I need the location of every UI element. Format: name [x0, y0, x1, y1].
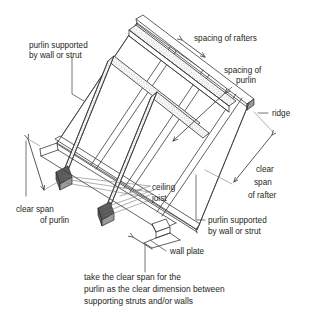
roof-construction-diagram: purlin supported by wall or strut spacin…: [0, 0, 312, 314]
label-spacing-of-rafters-line1: spacing of rafters: [194, 34, 257, 43]
label-wall-plate-line1: wall plate: [169, 247, 205, 256]
label-ceiling-joist-line2: joist: [151, 194, 167, 203]
label-spacing-of-purlin-line2: purlin: [236, 76, 256, 85]
label-purlin-supported-left-line2: by wall or strut: [29, 51, 83, 60]
label-clear-span-of-rafter-line3: of rafter: [248, 191, 276, 200]
dim-clear-span-of-purlin: [26, 139, 58, 196]
label-ridge-line1: ridge: [272, 109, 291, 118]
label-clear-span-of-rafter-line1: clear: [256, 165, 274, 174]
label-ceiling-joist-line1: ceiling: [152, 183, 176, 192]
label-wall-plate: wall plate: [169, 247, 205, 256]
label-purlin-supported-left-line1: purlin supported: [29, 41, 88, 50]
roof-diagram-svg: purlin supported by wall or strut spacin…: [0, 0, 312, 314]
label-purlin-supported-left: purlin supported by wall or strut: [29, 41, 88, 60]
label-clear-span-of-rafter-line2: span: [254, 178, 272, 187]
purlin-end-block-left: [56, 166, 72, 190]
label-purlin-supported-right: purlin supported by wall or strut: [208, 216, 267, 236]
caption-line3: supporting struts and/or walls: [84, 296, 193, 306]
leader-wall-plate: [150, 240, 166, 251]
label-clear-span-of-purlin-line2: of purlin: [40, 216, 70, 225]
label-clear-span-of-purlin: clear span of purlin: [16, 205, 70, 225]
label-caption: take the clear span for the purlin as th…: [84, 272, 225, 306]
label-purlin-supported-right-line1: purlin supported: [208, 216, 267, 225]
label-clear-span-of-rafter: clear span of rafter: [248, 165, 276, 200]
caption-line2: purlin as the clear dimension between: [84, 284, 225, 294]
label-purlin-supported-right-line2: by wall or strut: [208, 227, 262, 236]
label-ridge: ridge: [272, 109, 291, 118]
label-spacing-of-rafters: spacing of rafters: [194, 34, 257, 43]
label-spacing-of-purlin-line1: spacing of: [224, 66, 262, 75]
label-clear-span-of-purlin-line1: clear span: [16, 205, 54, 214]
dim-caption-span: [133, 237, 152, 272]
leader-purlin-supported-left: [72, 57, 84, 101]
caption-line1: take the clear span for the: [84, 272, 181, 282]
